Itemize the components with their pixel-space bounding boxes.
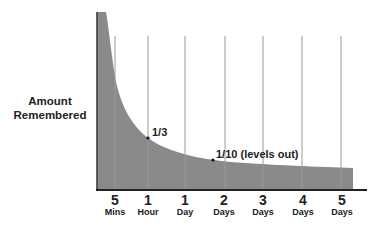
x-tick-3-days: 3Days — [243, 193, 283, 217]
one-tenth-marker — [211, 158, 214, 161]
x-tick-1-day: 1Day — [165, 193, 205, 217]
x-tick-1-hour: 1Hour — [128, 193, 168, 217]
annotation-one-tenth: 1/10 (levels out) — [216, 148, 299, 160]
x-tick-4-days: 4Days — [283, 193, 323, 217]
y-axis-label: Amount Remembered — [4, 94, 96, 122]
x-tick-2-days: 2Days — [204, 193, 244, 217]
annotation-one-third: 1/3 — [152, 126, 167, 138]
x-tick-5-days: 5Days — [322, 193, 362, 217]
one-third-marker — [146, 136, 149, 139]
